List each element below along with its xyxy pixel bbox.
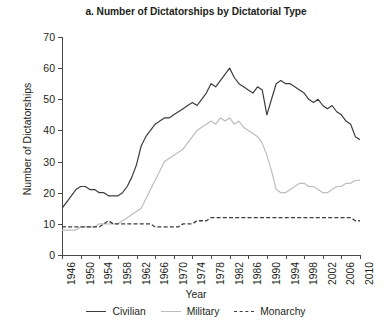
legend-item-military[interactable]: Military <box>161 306 220 317</box>
x-tick-label: 1946 <box>66 262 77 285</box>
x-tick-mark <box>304 255 305 259</box>
chart-figure: a. Number of Dictatorships by Dictatoria… <box>0 0 392 327</box>
legend-label: Military <box>187 306 220 317</box>
x-tick-mark <box>230 255 231 259</box>
x-tick-label: 2002 <box>327 262 338 285</box>
series-line-monarchy <box>62 218 360 227</box>
chart-title: a. Number of Dictatorships by Dictatoria… <box>0 6 392 17</box>
y-tick-label: 50 <box>29 93 55 105</box>
y-tick-label: 70 <box>29 31 55 43</box>
y-tick-label: 10 <box>29 218 55 230</box>
x-tick-label: 1994 <box>290 262 301 285</box>
x-tick-mark <box>81 255 82 259</box>
legend-label: Monarchy <box>260 306 305 317</box>
x-tick-mark <box>248 255 249 259</box>
x-tick-label: 2010 <box>364 262 375 285</box>
x-tick-label: 1978 <box>215 262 226 285</box>
x-tick-mark <box>341 255 342 259</box>
y-tick-label: 20 <box>29 187 55 199</box>
x-tick-label: 1998 <box>308 262 319 285</box>
x-tick-label: 2006 <box>345 262 356 285</box>
legend-swatch-icon <box>161 311 181 312</box>
x-tick-label: 1966 <box>159 262 170 285</box>
x-tick-label: 1962 <box>141 262 152 285</box>
x-tick-mark <box>360 255 361 259</box>
x-tick-mark <box>286 255 287 259</box>
x-tick-mark <box>155 255 156 259</box>
series-lines <box>62 37 360 255</box>
y-tick-label: 0 <box>29 249 55 261</box>
x-tick-mark <box>62 255 63 259</box>
x-tick-label: 1974 <box>196 262 207 285</box>
x-tick-mark <box>99 255 100 259</box>
x-tick-label: 1954 <box>103 262 114 285</box>
x-tick-mark <box>137 255 138 259</box>
legend-item-civilian[interactable]: Civilian <box>86 306 145 317</box>
x-tick-mark <box>192 255 193 259</box>
y-tick-label: 30 <box>29 156 55 168</box>
x-tick-label: 1950 <box>85 262 96 285</box>
y-tick-label: 40 <box>29 124 55 136</box>
legend-label: Civilian <box>112 306 145 317</box>
x-tick-mark <box>211 255 212 259</box>
legend-swatch-icon <box>86 311 106 312</box>
chart-legend: CivilianMilitaryMonarchy <box>0 306 392 317</box>
x-tick-label: 1958 <box>122 262 133 285</box>
y-tick-label: 60 <box>29 62 55 74</box>
legend-item-monarchy[interactable]: Monarchy <box>234 306 305 317</box>
legend-swatch-icon <box>234 311 254 312</box>
x-tick-label: 1982 <box>234 262 245 285</box>
x-tick-label: 1990 <box>271 262 282 285</box>
x-tick-mark <box>323 255 324 259</box>
x-tick-mark <box>267 255 268 259</box>
x-axis-label: Year <box>0 288 392 300</box>
plot-area <box>62 37 360 255</box>
x-tick-label: 1986 <box>252 262 263 285</box>
x-tick-mark <box>118 255 119 259</box>
x-tick-label: 1970 <box>178 262 189 285</box>
x-tick-mark <box>174 255 175 259</box>
series-line-military <box>62 118 360 230</box>
